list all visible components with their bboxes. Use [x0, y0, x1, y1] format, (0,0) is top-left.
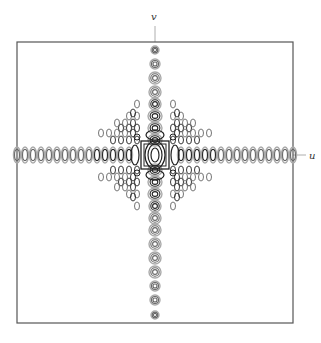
horizontal-contour-row — [14, 147, 297, 163]
contour-plot — [0, 0, 321, 343]
u-axis-label: u — [309, 150, 315, 161]
vertical-contour-column — [148, 46, 162, 319]
axis-ticks — [155, 26, 306, 155]
v-axis-label: v — [151, 11, 157, 22]
contour-figure: v u — [0, 0, 321, 343]
